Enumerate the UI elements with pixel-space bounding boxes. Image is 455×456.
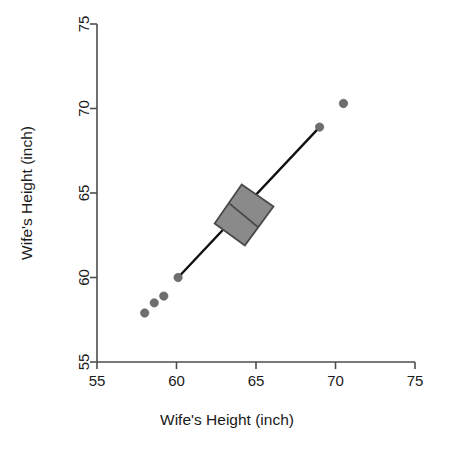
x-axis-tick-labels: 5560657075: [89, 372, 424, 389]
data-point: [315, 123, 323, 131]
y-tick-label-65: 65: [75, 185, 92, 202]
x-tick-label-60: 60: [168, 372, 185, 389]
x-axis-title: Wife's Height (inch): [160, 411, 294, 428]
y-tick-label-60: 60: [75, 269, 92, 286]
data-point: [160, 292, 168, 300]
y-axis-title: Wife's Height (inch): [18, 126, 35, 260]
data-point: [339, 99, 347, 107]
x-tick-label-70: 70: [327, 372, 344, 389]
x-tick-label-75: 75: [407, 372, 424, 389]
y-axis-tick-labels: 5560657075: [75, 16, 92, 371]
y-tick-label-55: 55: [75, 354, 92, 371]
y-tick-label-70: 70: [75, 100, 92, 117]
scatter-plot: 5560657075 5560657075 Wife's Height (inc…: [0, 0, 455, 456]
x-tick-label-65: 65: [248, 372, 265, 389]
x-axis-ticks: [97, 362, 415, 369]
data-point: [174, 273, 182, 281]
x-tick-label-55: 55: [89, 372, 106, 389]
y-tick-label-75: 75: [75, 16, 92, 33]
data-point: [150, 299, 158, 307]
data-point: [141, 309, 149, 317]
chart-container: 5560657075 5560657075 Wife's Height (inc…: [0, 0, 455, 456]
